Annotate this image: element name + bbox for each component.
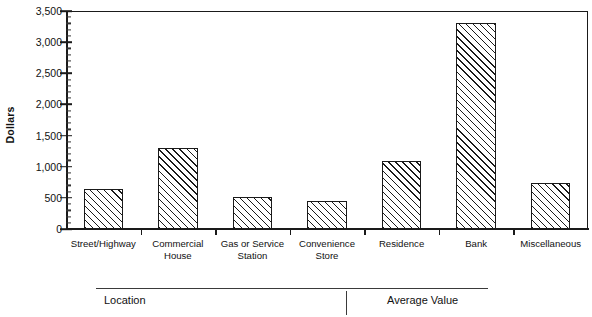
y-axis-minor-tick: [66, 98, 71, 99]
y-axis-minor-tick: [66, 116, 71, 117]
x-axis-category-label: Miscellaneous: [513, 238, 588, 250]
x-axis-category-label: Residence: [364, 238, 439, 250]
y-axis-major-tick: [60, 10, 72, 12]
y-axis-minor-tick: [66, 60, 71, 61]
y-axis-minor-tick: [66, 216, 71, 217]
y-axis-minor-tick: [66, 48, 71, 49]
y-axis-minor-tick: [66, 179, 71, 180]
y-axis-minor-tick: [66, 29, 71, 30]
y-axis-tick-label: 500: [18, 193, 62, 204]
y-axis-minor-tick: [66, 23, 71, 24]
x-axis-separator-tick: [290, 229, 292, 235]
footer-location-header: Location: [104, 294, 146, 306]
bar: [531, 183, 571, 229]
bar: [307, 201, 347, 229]
y-axis-minor-tick: [66, 129, 71, 130]
y-axis-tick-labels: 05001,0001,5002,0002,5003,0003,500: [14, 0, 62, 317]
y-axis-minor-tick: [66, 141, 71, 142]
footer-column-divider: [346, 291, 347, 315]
bar-chart-figure: Dollars 05001,0001,5002,0002,5003,0003,5…: [0, 0, 592, 317]
plot-area: [66, 11, 588, 229]
y-axis-minor-tick: [66, 191, 71, 192]
y-axis-minor-tick: [66, 222, 71, 223]
y-axis-tick-label: 3,500: [18, 6, 62, 17]
y-axis-tick-label: 2,000: [18, 99, 62, 110]
bar: [233, 197, 273, 229]
y-axis-tick-label: 1,500: [18, 130, 62, 141]
bar: [158, 148, 198, 229]
y-axis-minor-tick: [66, 35, 71, 36]
y-axis-major-tick: [60, 166, 72, 168]
y-axis-minor-tick: [66, 17, 71, 18]
y-axis-major-tick: [60, 228, 72, 230]
x-axis-category-label: Commercial House: [141, 238, 216, 261]
x-axis-category-label: Bank: [439, 238, 514, 250]
y-axis-minor-tick: [66, 85, 71, 86]
x-axis-category-label: Convenience Store: [290, 238, 365, 261]
x-axis-category-label: Gas or Service Station: [215, 238, 290, 261]
y-axis-minor-tick: [66, 66, 71, 67]
x-axis-separator-tick: [439, 229, 441, 235]
footer-table-header: Location Average Value: [0, 283, 592, 317]
bar: [456, 23, 496, 229]
y-axis-major-tick: [60, 72, 72, 74]
y-axis-tick-label: 3,000: [18, 37, 62, 48]
y-axis-minor-tick: [66, 172, 71, 173]
y-axis-major-tick: [60, 41, 72, 43]
y-axis-minor-tick: [66, 123, 71, 124]
y-axis-tick-label: 1,000: [18, 161, 62, 172]
bar: [382, 161, 422, 229]
x-axis-separator-tick: [364, 229, 366, 235]
y-axis-minor-tick: [66, 79, 71, 80]
y-axis-major-tick: [60, 135, 72, 137]
y-axis-major-tick: [60, 197, 72, 199]
y-axis-minor-tick: [66, 110, 71, 111]
footer-horizontal-rule: [96, 288, 488, 289]
footer-average-value-header: Average Value: [387, 294, 458, 306]
y-axis-minor-tick: [66, 154, 71, 155]
y-axis-minor-tick: [66, 91, 71, 92]
y-axis-minor-tick: [66, 203, 71, 204]
x-axis-separator-tick: [141, 229, 143, 235]
y-axis-tick-label: 0: [18, 224, 62, 235]
x-axis-separator-tick: [513, 229, 515, 235]
y-axis-minor-tick: [66, 185, 71, 186]
x-axis-separator-tick: [215, 229, 217, 235]
x-axis-category-label: Street/Highway: [66, 238, 141, 250]
bar: [84, 189, 124, 229]
y-axis-tick-label: 2,500: [18, 68, 62, 79]
y-axis-minor-tick: [66, 210, 71, 211]
y-axis-minor-tick: [66, 54, 71, 55]
y-axis-minor-tick: [66, 160, 71, 161]
y-axis-major-tick: [60, 104, 72, 106]
y-axis-minor-tick: [66, 147, 71, 148]
